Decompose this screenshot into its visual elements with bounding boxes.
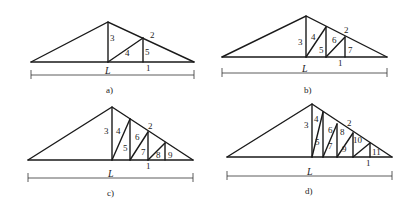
member-label-1: 1: [146, 63, 151, 73]
span-label: L: [306, 166, 313, 177]
member-label-4: 4: [116, 126, 121, 136]
member-label-8: 8: [340, 127, 345, 137]
span-label: L: [107, 168, 114, 179]
span-label: L: [104, 65, 111, 76]
member-label-2: 2: [347, 118, 352, 128]
member-label-5: 5: [145, 47, 150, 57]
span-label: L: [301, 63, 308, 74]
panel-caption: d): [305, 186, 313, 196]
member-label-4: 4: [125, 48, 130, 58]
member-label-2: 2: [344, 25, 349, 35]
member-label-2: 2: [148, 121, 153, 131]
truss-diagram: 3 4 5 2 1 L a) 3 4 5 6 7 2 1 L b): [0, 0, 417, 208]
truss-panel-b: 3 4 5 6 7 2 1 L b): [222, 16, 387, 95]
member-label-1: 1: [338, 58, 343, 68]
member-label-11: 11: [372, 147, 381, 157]
member-label-6: 6: [328, 125, 333, 135]
member-label-3: 3: [304, 120, 309, 130]
member-label-5: 5: [315, 137, 320, 147]
panel-caption: c): [107, 188, 114, 198]
member-label-6: 6: [332, 35, 337, 45]
member-label-3: 3: [298, 37, 303, 47]
truss-panel-d: 3 4 5 6 7 8 9 10 11 2 1 L d): [227, 104, 392, 196]
member-label-7: 7: [348, 45, 353, 55]
member-label-5: 5: [319, 45, 324, 55]
truss-panel-c: 3 4 5 6 7 8 9 2 1 L c): [28, 107, 193, 198]
diagonal-web: [112, 119, 130, 160]
diagonal-web: [353, 143, 370, 157]
member-label-2: 2: [150, 30, 155, 40]
truss-panel-a: 3 4 5 2 1 L a): [31, 22, 194, 95]
top-chord: [227, 104, 392, 157]
member-label-4: 4: [314, 114, 319, 124]
member-label-3: 3: [104, 126, 109, 136]
member-label-8: 8: [156, 150, 161, 160]
member-label-7: 7: [141, 147, 146, 157]
member-label-1: 1: [366, 158, 371, 168]
member-label-4: 4: [311, 32, 316, 42]
member-label-5: 5: [123, 143, 128, 153]
panel-caption: a): [106, 85, 113, 95]
member-label-7: 7: [328, 141, 333, 151]
member-label-10: 10: [353, 135, 363, 145]
member-label-9: 9: [168, 150, 173, 160]
member-label-6: 6: [135, 132, 140, 142]
member-label-9: 9: [342, 144, 347, 154]
member-label-3: 3: [110, 33, 115, 43]
panel-caption: b): [304, 85, 312, 95]
member-label-1: 1: [146, 161, 151, 171]
top-chord: [222, 16, 387, 57]
